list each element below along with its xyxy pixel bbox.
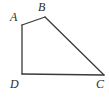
vertex-label-b: B bbox=[38, 1, 45, 13]
vertex-label-a: A bbox=[10, 11, 17, 23]
geometry-figure: A B C D bbox=[0, 0, 109, 98]
vertex-label-c: C bbox=[96, 78, 104, 90]
vertex-label-d: D bbox=[10, 78, 19, 90]
